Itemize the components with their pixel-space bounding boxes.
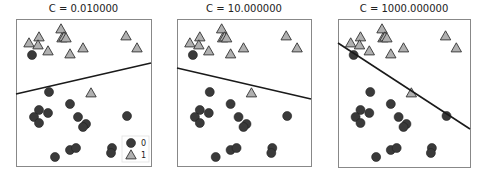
circle-marker xyxy=(234,113,243,122)
circle-marker xyxy=(44,109,53,118)
circle-marker xyxy=(79,123,88,132)
circle-marker xyxy=(66,100,75,109)
circle-marker xyxy=(356,119,365,128)
plots-canvas: 01 xyxy=(0,0,482,178)
circle-marker xyxy=(392,144,401,153)
legend-label-0: 0 xyxy=(141,139,146,148)
circle-marker xyxy=(211,153,220,162)
circle-marker xyxy=(205,88,214,97)
circle-marker xyxy=(226,100,235,109)
circle-marker xyxy=(283,112,292,121)
circle-marker xyxy=(426,149,435,158)
circle-marker xyxy=(394,113,403,122)
circle-marker xyxy=(107,149,116,158)
circle-marker xyxy=(267,149,276,158)
legend-label-1: 1 xyxy=(141,151,146,160)
circle-marker xyxy=(123,112,132,121)
circle-marker xyxy=(28,51,37,60)
circle-marker xyxy=(372,153,381,162)
circle-marker xyxy=(45,88,54,97)
circle-marker xyxy=(51,153,60,162)
circle-marker xyxy=(232,144,241,153)
circle-marker xyxy=(366,88,375,97)
circle-marker xyxy=(74,113,83,122)
circle-marker xyxy=(386,100,395,109)
circle-marker xyxy=(239,123,248,132)
circle-marker xyxy=(72,144,81,153)
circle-marker xyxy=(195,119,204,128)
circle-marker xyxy=(399,123,408,132)
circle-marker xyxy=(188,51,197,60)
circle-marker xyxy=(204,109,213,118)
circle-marker xyxy=(35,119,44,128)
legend-circle-icon xyxy=(127,139,136,148)
circle-marker xyxy=(365,109,374,118)
